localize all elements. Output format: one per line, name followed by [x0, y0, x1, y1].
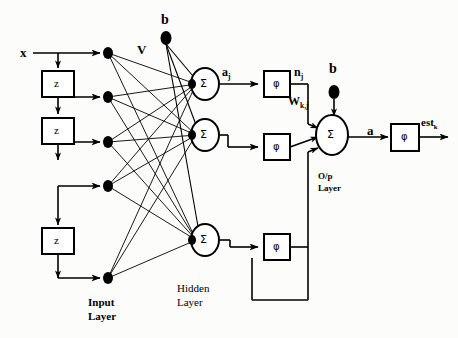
output-sum-label: Σ: [327, 129, 334, 140]
input-layer-caption-line2: Layer: [88, 311, 116, 322]
delay-block-label-1: z: [54, 78, 59, 89]
network-output-base: est: [421, 116, 434, 128]
input-to-hidden-weights: [108, 53, 196, 278]
output-sum-output-label: a: [367, 124, 374, 137]
output-layer-caption-line1: O/p: [318, 172, 333, 181]
hidden-activation-output-subscript: j: [301, 72, 303, 81]
neural-network-diagram: x z z z V b Σ Σ Σ aj φ φ φ nj Wk,j b Σ a…: [0, 0, 458, 338]
hidden-activation-label-2: φ: [273, 142, 280, 152]
hidden-bias-label: b: [161, 13, 169, 27]
hidden-sum-label-2: Σ: [200, 129, 207, 140]
hidden-sum-output-subscript: j: [228, 72, 230, 81]
output-bias-label: b: [329, 62, 337, 76]
hidden-output-weight-subscript: k,j: [300, 101, 308, 110]
output-bias-node: [329, 85, 340, 99]
hidden-activation-label-1: φ: [273, 79, 280, 89]
hidden-activation-output-base: n: [294, 65, 301, 79]
input-layer-caption-line1: Input: [88, 297, 114, 308]
hidden-sum-output-label: aj: [222, 66, 230, 81]
hidden-sum-label-3: Σ: [200, 234, 207, 245]
input-layer-nodes: [103, 47, 113, 284]
hidden-activation-output-label: nj: [294, 66, 303, 81]
hidden-sum-label-1: Σ: [200, 78, 207, 89]
hidden-output-weight-label: Wk,j: [288, 95, 308, 110]
hidden-activation-label-3: φ: [273, 242, 280, 252]
hidden-output-weight-base: W: [288, 94, 300, 108]
hidden-layer-caption-line1: Hidden: [177, 283, 209, 294]
hidden-layer-caption-line2: Layer: [177, 297, 203, 308]
delay-block-label-2: z: [54, 125, 59, 136]
hidden-bias-node: [161, 31, 172, 45]
network-graphics: [0, 0, 458, 338]
network-output-label: estk: [421, 117, 438, 131]
input-hidden-weight-label: V: [137, 43, 146, 56]
output-layer-caption-line2: Layer: [318, 184, 341, 193]
delay-block-label-3: z: [54, 235, 59, 246]
hidden-to-output-routing: [252, 84, 318, 300]
hidden-neurons: [188, 68, 219, 256]
input-signal-label: x: [20, 46, 27, 59]
output-activation-label: φ: [401, 132, 408, 142]
network-output-subscript: k: [434, 123, 438, 130]
hidden-sum-to-activation: [219, 84, 258, 247]
hidden-activation-boxes: [264, 71, 290, 260]
